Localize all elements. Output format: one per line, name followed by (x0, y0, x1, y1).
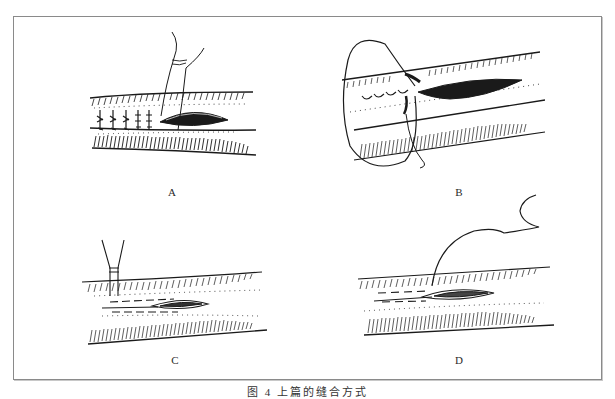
panel-d-illustration (354, 193, 564, 343)
panel-b-illustration (340, 36, 570, 171)
forceps-suture-illustration (82, 232, 282, 347)
panel-d-label: D (455, 354, 463, 366)
interrupted-suture-illustration (88, 28, 268, 163)
panel-c-label: C (171, 354, 178, 366)
panel-c-illustration (82, 232, 282, 347)
subcuticular-suture-illustration (354, 193, 564, 343)
figure-caption: 图 4 上篇的缝合方式 (0, 383, 615, 399)
panel-a-label: A (168, 186, 176, 198)
continuous-suture-illustration (340, 36, 570, 171)
panel-a-illustration (88, 28, 268, 163)
